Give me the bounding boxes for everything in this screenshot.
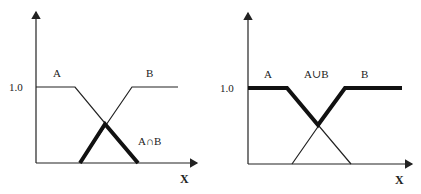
right-set-a-label: A <box>264 68 272 80</box>
right-y-tick-label: 1.0 <box>220 82 234 94</box>
left-y-tick-label: 1.0 <box>9 81 23 93</box>
left-set-a-label: A <box>53 67 61 79</box>
left-intersection-label: A∩B <box>138 135 161 147</box>
right-union-curve <box>248 88 402 125</box>
right-union-label: A∪B <box>304 68 329 80</box>
right-panel-union: 1.0 A A∪B B X <box>220 13 412 187</box>
right-x-axis-label: X <box>395 173 404 187</box>
fuzzy-set-diagram: 1.0 A B A∩B X 1.0 A A∪B B X <box>0 0 421 194</box>
right-set-b-curve <box>292 88 402 164</box>
right-set-b-label: B <box>361 68 368 80</box>
left-intersection-curve <box>80 124 138 163</box>
left-set-b-label: B <box>146 67 153 79</box>
left-panel-intersection: 1.0 A B A∩B X <box>9 12 197 186</box>
left-x-axis-label: X <box>180 172 189 186</box>
